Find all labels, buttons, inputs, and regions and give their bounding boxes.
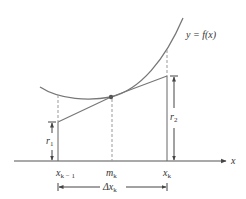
function-curve xyxy=(40,18,183,99)
tangent-point xyxy=(109,95,113,99)
axis-label: x xyxy=(230,155,236,166)
tick-m-k: mk xyxy=(106,167,117,180)
tick-x-k: xk xyxy=(162,167,171,180)
curve-label: y = f(x) xyxy=(185,29,217,41)
r1-label: r1 xyxy=(46,135,54,148)
tangent-line-diagram: y = f(x) x xk − 1 mk xk r1 r2 Δxk xyxy=(0,0,246,199)
r2-label: r2 xyxy=(170,111,178,124)
delta-x-label: Δxk xyxy=(102,181,117,194)
tick-x-k-minus-1: xk − 1 xyxy=(55,167,75,180)
